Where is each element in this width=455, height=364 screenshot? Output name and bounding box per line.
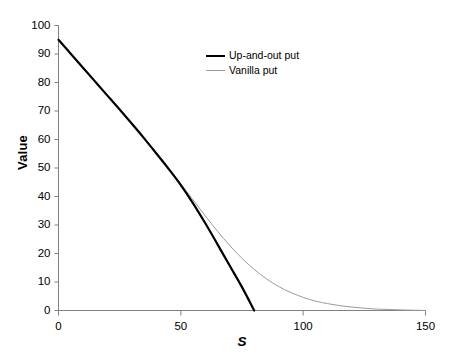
y-tick-label: 10 bbox=[14, 276, 51, 288]
series-line bbox=[59, 40, 255, 311]
legend-line-icon bbox=[206, 70, 225, 71]
x-tick-label: 0 bbox=[55, 321, 61, 333]
data-series bbox=[59, 40, 426, 311]
y-tick-label: 80 bbox=[14, 77, 51, 89]
y-tick-label: 0 bbox=[14, 305, 51, 317]
y-tick-label: 40 bbox=[14, 191, 51, 203]
y-axis-title: Value bbox=[15, 135, 30, 170]
legend-label: Up-and-out put bbox=[229, 50, 299, 61]
x-tick-label: 150 bbox=[416, 321, 435, 333]
legend-label: Vanilla put bbox=[229, 65, 277, 76]
x-axis-title: S bbox=[237, 334, 246, 349]
y-tick-label: 20 bbox=[14, 248, 51, 260]
y-tick-label: 70 bbox=[14, 105, 51, 117]
y-tick-label: 30 bbox=[14, 219, 51, 231]
y-tick-label: 100 bbox=[14, 20, 51, 32]
legend-line-icon bbox=[206, 55, 225, 57]
x-tick-label: 100 bbox=[294, 321, 313, 333]
x-tick-label: 50 bbox=[174, 321, 187, 333]
legend-item: Vanilla put bbox=[206, 63, 299, 78]
series-line bbox=[59, 40, 426, 311]
chart-container: 0102030405060708090100 050100150 Value S… bbox=[0, 0, 455, 364]
y-tick-label: 90 bbox=[14, 48, 51, 60]
chart-legend: Up-and-out putVanilla put bbox=[206, 48, 299, 78]
legend-item: Up-and-out put bbox=[206, 48, 299, 63]
